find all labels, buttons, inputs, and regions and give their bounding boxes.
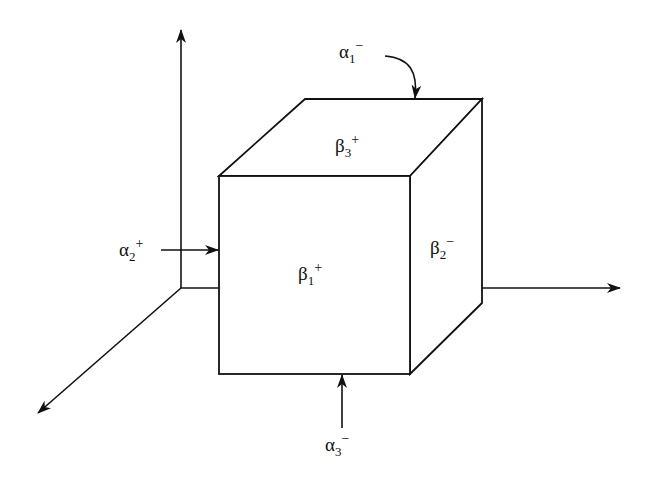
label-alpha2: α2+ [119, 236, 143, 264]
cube-diagram: β1+ β3+ β2− α1− α2+ α3− [0, 0, 654, 485]
arrow-alpha1 [385, 56, 416, 98]
cube-front-face [219, 176, 410, 374]
diagonal-axis [38, 288, 181, 413]
label-alpha1: α1− [339, 38, 363, 66]
label-alpha3: α3− [325, 431, 349, 459]
